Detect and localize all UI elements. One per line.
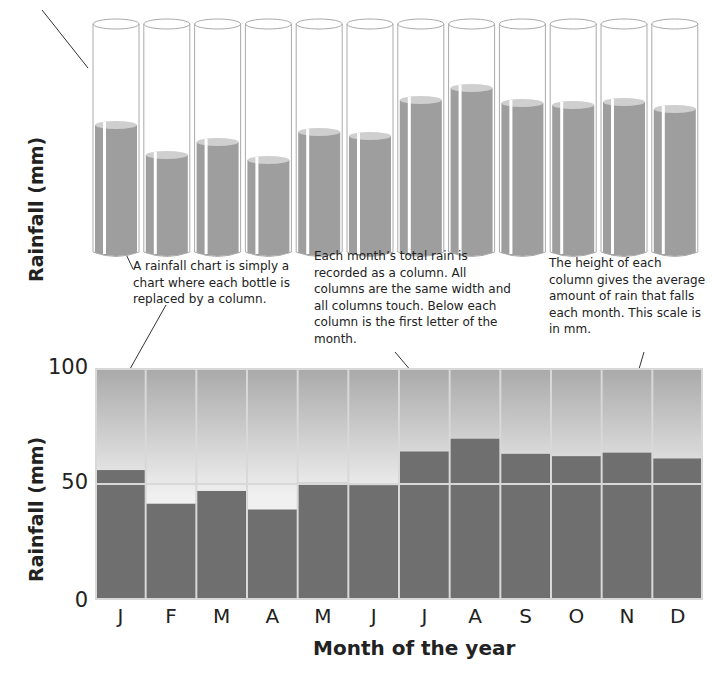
month-label: J	[349, 604, 399, 628]
bar	[399, 452, 450, 600]
note-right: The height of each column gives the aver…	[549, 255, 709, 338]
bar	[602, 453, 653, 600]
month-label: A	[247, 604, 297, 628]
bar	[551, 456, 602, 600]
month-label: N	[602, 604, 652, 628]
bar	[450, 439, 501, 600]
month-label: M	[298, 604, 348, 628]
y-tick-100: 100	[48, 355, 88, 379]
month-label: F	[146, 604, 196, 628]
month-label: M	[197, 604, 247, 628]
month-label: O	[551, 604, 601, 628]
bar	[652, 458, 703, 600]
bar	[247, 510, 298, 600]
month-label: J	[399, 604, 449, 628]
note-middle: Each month’s total rain is recorded as a…	[314, 248, 514, 347]
bar	[146, 504, 197, 600]
bottle	[195, 19, 241, 257]
bar	[196, 491, 247, 600]
month-label: A	[450, 604, 500, 628]
bar	[348, 485, 399, 600]
bottle	[449, 19, 495, 257]
y-tick-0: 0	[48, 588, 88, 612]
bottle	[245, 19, 291, 257]
x-axis-label: Month of the year	[313, 636, 515, 660]
note-left: A rainfall chart is simply a chart where…	[133, 258, 298, 308]
bottle	[296, 19, 342, 257]
bottle	[93, 19, 139, 257]
month-label: D	[653, 604, 703, 628]
bottle	[499, 19, 545, 257]
month-label: J	[95, 604, 145, 628]
y-axis-label: Rainfall (mm)	[25, 437, 47, 582]
bottle	[550, 19, 596, 257]
bar	[95, 470, 146, 600]
bottle	[347, 19, 393, 257]
bottle	[652, 19, 698, 257]
y-tick-50: 50	[48, 470, 88, 494]
bottle	[398, 19, 444, 257]
bottle	[144, 19, 190, 257]
bottle	[601, 19, 647, 257]
bar	[500, 454, 551, 600]
month-label: S	[501, 604, 551, 628]
rainfall-chart	[95, 368, 703, 600]
bar	[298, 483, 349, 600]
